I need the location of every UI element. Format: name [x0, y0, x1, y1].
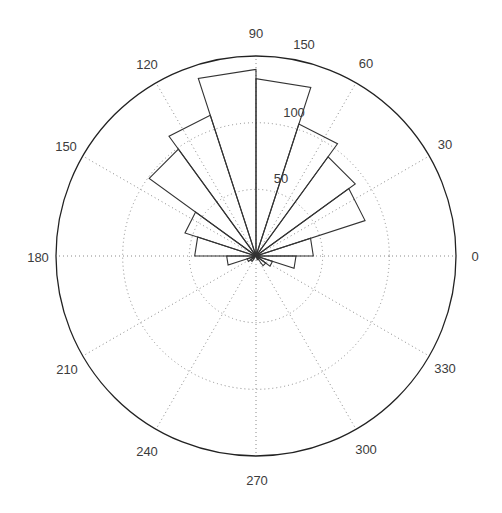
grid-spoke [156, 83, 256, 256]
angle-label-330: 330 [434, 362, 456, 375]
rose-bar [149, 149, 256, 256]
angle-label-240: 240 [136, 445, 158, 458]
angle-label-120: 120 [136, 58, 158, 71]
rose-bar [169, 115, 256, 256]
grid-spoke [256, 256, 356, 429]
angle-label-30: 30 [438, 138, 452, 151]
angle-label-90: 90 [249, 27, 263, 40]
angle-label-60: 60 [359, 57, 373, 70]
grid-spoke [256, 256, 429, 356]
grid-spoke [156, 256, 256, 429]
angle-label-210: 210 [56, 363, 78, 376]
grid-spoke [83, 156, 256, 256]
rose-bar [195, 237, 256, 256]
rose-plot [0, 0, 502, 513]
angle-label-150: 150 [55, 140, 77, 153]
angle-label-270: 270 [246, 474, 268, 487]
radial-label-100: 100 [283, 106, 305, 119]
angle-label-180: 180 [27, 251, 49, 264]
rose-bar [256, 157, 355, 256]
grid-spoke [83, 256, 256, 356]
rose-bar [256, 189, 365, 256]
rose-bars [149, 69, 365, 268]
angle-label-0: 0 [471, 250, 478, 263]
angle-label-300: 300 [355, 443, 377, 456]
radial-label-150: 150 [293, 38, 315, 51]
rose-bar [256, 124, 338, 256]
radial-label-50: 50 [274, 172, 288, 185]
